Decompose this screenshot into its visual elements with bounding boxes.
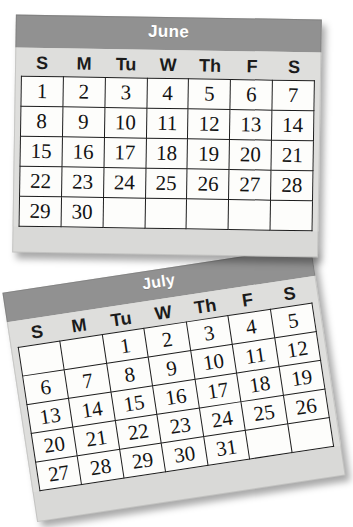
day-header-thursday: Th xyxy=(189,56,231,75)
week-row: 1 2 3 4 5 6 7 xyxy=(21,76,314,111)
day-header-friday: F xyxy=(225,288,270,312)
date-cell[interactable]: 31 xyxy=(203,430,249,465)
date-cell[interactable]: 12 xyxy=(188,109,230,140)
day-header-monday: M xyxy=(63,54,105,73)
date-cell[interactable]: 1 xyxy=(21,76,63,107)
week-row: 8 9 10 11 12 13 14 xyxy=(20,106,313,141)
date-cell[interactable]: 8 xyxy=(20,106,62,137)
day-header-wednesday: W xyxy=(141,301,186,325)
date-cell[interactable]: 3 xyxy=(105,78,147,109)
date-cell[interactable]: 4 xyxy=(146,78,188,109)
date-cell[interactable]: 27 xyxy=(229,169,271,200)
date-cell[interactable]: 28 xyxy=(78,449,124,484)
date-cell[interactable]: 5 xyxy=(188,79,230,110)
day-header-wednesday: W xyxy=(147,56,189,75)
date-cell[interactable]: 30 xyxy=(61,197,103,228)
date-cell[interactable]: 15 xyxy=(20,136,62,167)
day-header-monday: M xyxy=(57,313,102,337)
date-cell[interactable]: 22 xyxy=(20,166,62,197)
day-header-sunday: S xyxy=(21,54,63,73)
date-cell[interactable]: 7 xyxy=(272,80,314,111)
day-header-saturday: S xyxy=(267,282,312,306)
day-header-sunday: S xyxy=(15,320,60,344)
date-grid-june: 1 2 3 4 5 6 7 8 9 10 11 12 13 xyxy=(19,76,315,232)
calendar-body-june: S M Tu W Th F S 1 2 3 4 5 6 7 xyxy=(13,48,322,232)
date-cell[interactable]: 13 xyxy=(230,109,272,140)
calendar-card-june[interactable]: June S M Tu W Th F S 1 2 3 4 5 xyxy=(12,15,322,258)
date-cell[interactable]: 21 xyxy=(271,140,313,171)
date-cell[interactable] xyxy=(287,418,333,453)
date-cell[interactable]: 20 xyxy=(229,139,271,170)
date-cell[interactable] xyxy=(245,424,291,459)
calendar-stage: July S M Tu W Th F S 1 2 3 xyxy=(0,0,353,527)
calendar-card-july[interactable]: July S M Tu W Th F S 1 2 3 xyxy=(2,246,345,522)
date-cell[interactable]: 17 xyxy=(104,138,146,169)
day-header-saturday: S xyxy=(273,58,315,77)
date-cell[interactable] xyxy=(270,200,312,231)
date-cell[interactable] xyxy=(145,198,187,229)
date-cell[interactable]: 18 xyxy=(146,138,188,169)
date-cell[interactable]: 24 xyxy=(103,168,145,199)
date-cell[interactable]: 9 xyxy=(62,107,104,138)
date-cell[interactable]: 29 xyxy=(19,196,61,227)
date-cell[interactable]: 2 xyxy=(63,77,105,108)
date-cell[interactable] xyxy=(103,198,145,229)
day-header-tuesday: Tu xyxy=(99,307,144,331)
date-cell[interactable] xyxy=(228,199,270,230)
date-cell[interactable]: 29 xyxy=(120,443,166,478)
week-row: 29 30 xyxy=(19,196,312,231)
date-cell[interactable] xyxy=(186,199,228,230)
date-cell[interactable]: 27 xyxy=(36,456,82,491)
date-cell[interactable]: 23 xyxy=(61,167,103,198)
date-cell[interactable]: 6 xyxy=(230,79,272,110)
day-header-tuesday: Tu xyxy=(105,55,147,74)
week-row: 22 23 24 25 26 27 28 xyxy=(20,166,313,201)
date-cell[interactable]: 26 xyxy=(187,169,229,200)
date-cell[interactable]: 16 xyxy=(62,137,104,168)
date-cell[interactable]: 30 xyxy=(161,437,207,472)
date-cell[interactable]: 11 xyxy=(146,108,188,139)
day-header-thursday: Th xyxy=(183,294,228,318)
week-row: 15 16 17 18 19 20 21 xyxy=(20,136,313,171)
date-cell[interactable]: 25 xyxy=(145,168,187,199)
date-cell[interactable]: 28 xyxy=(271,170,313,201)
date-cell[interactable]: 19 xyxy=(187,139,229,170)
date-cell[interactable]: 14 xyxy=(272,110,314,141)
day-header-friday: F xyxy=(231,57,273,76)
calendar-title-june: June xyxy=(15,15,321,53)
date-cell[interactable]: 10 xyxy=(104,108,146,139)
